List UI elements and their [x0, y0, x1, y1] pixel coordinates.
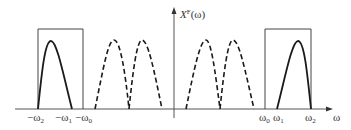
left-dashed-lobe-2: [129, 40, 162, 109]
y-axis-label: XF(ω): [179, 8, 206, 21]
x-axis-arrow-icon: [326, 107, 333, 112]
tick-label-neg-omega1: −ω1: [55, 111, 72, 125]
right-dashed-lobe-2: [220, 40, 254, 109]
x-axis-label: ω: [333, 111, 340, 123]
left-dashed-lobe-1: [95, 40, 129, 109]
right-solid-lobe: [277, 41, 311, 109]
tick-label-omega2: ω2: [305, 111, 316, 125]
left-solid-lobe: [38, 41, 72, 109]
right-dashed-lobe-1: [186, 40, 220, 109]
right-filter-box: [265, 29, 311, 109]
tick-label-omega1: ω1: [273, 111, 284, 125]
tick-label-neg-omega0: −ω0: [75, 111, 92, 125]
left-filter-box: [38, 29, 83, 109]
tick-label-neg-omega2: −ω2: [27, 111, 44, 125]
spectrum-diagram: XF(ω) ω −ω2 −ω1 −ω0 ω0 ω1 ω2: [0, 0, 351, 130]
tick-label-omega0: ω0: [259, 111, 270, 125]
y-axis-arrow-icon: [172, 7, 177, 14]
